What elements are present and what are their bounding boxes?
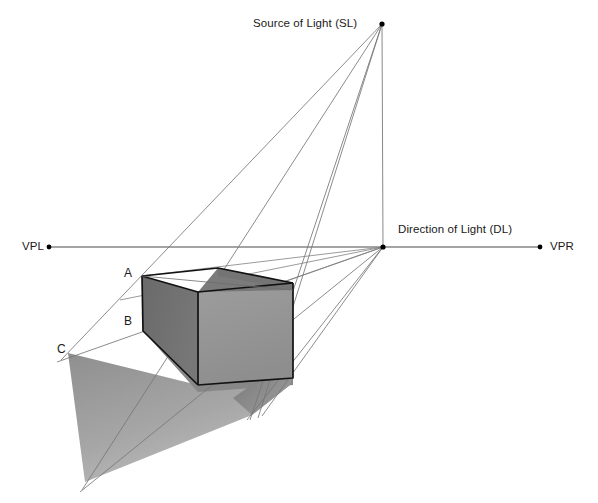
label-source-of-light: Source of Light (SL)	[253, 18, 357, 30]
open-box-group	[142, 268, 293, 385]
dot-vpl[interactable]	[47, 245, 52, 250]
diagram-canvas: Source of Light (SL) Direction of Light …	[0, 0, 598, 503]
label-point-c: C	[57, 343, 66, 355]
label-point-a: A	[124, 267, 132, 279]
label-direction-of-light: Direction of Light (DL)	[398, 224, 512, 236]
label-vpr: VPR	[550, 241, 574, 253]
box-left-face	[142, 276, 198, 385]
label-vpl: VPL	[22, 241, 44, 253]
dot-vpr[interactable]	[538, 245, 543, 250]
vertical-sl-to-dl-line	[382, 24, 383, 247]
label-point-b: B	[124, 315, 132, 327]
box-front-right-face	[198, 283, 293, 385]
point-dots	[47, 21, 543, 249]
dot-direction-of-light[interactable]	[380, 244, 385, 249]
shadow-construction-svg	[0, 0, 598, 503]
dot-source-of-light[interactable]	[379, 21, 384, 26]
